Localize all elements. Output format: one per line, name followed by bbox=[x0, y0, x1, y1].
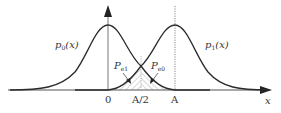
tick-label-a: A bbox=[171, 95, 178, 105]
curve-label-p1-arg: (x) bbox=[215, 39, 228, 50]
y-axis-arrow-icon bbox=[104, 5, 112, 17]
error-label-pe0-main: P bbox=[151, 60, 158, 71]
error-label-pe0: Pe0 bbox=[151, 61, 165, 72]
tick-label-a-half: A/2 bbox=[132, 95, 149, 105]
error-label-pe1-sub: e1 bbox=[121, 65, 128, 72]
curve-p1 bbox=[75, 25, 268, 90]
curve-p0 bbox=[10, 25, 210, 90]
tick-label-zero: 0 bbox=[105, 95, 111, 105]
error-label-pe1-main: P bbox=[114, 60, 121, 71]
x-axis-label: x bbox=[265, 96, 271, 106]
curve-label-p0: p0(x) bbox=[55, 40, 79, 51]
error-label-pe0-sub: e0 bbox=[158, 65, 165, 72]
curve-label-p1: p1(x) bbox=[205, 40, 229, 51]
error-label-pe1: Pe1 bbox=[114, 61, 128, 72]
curve-label-p0-arg: (x) bbox=[65, 39, 78, 50]
